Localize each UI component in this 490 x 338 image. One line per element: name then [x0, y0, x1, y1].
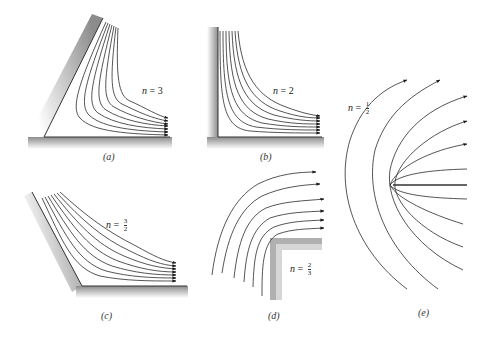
- wall-shading-b: [207, 27, 218, 137]
- fraction-denominator: 3: [308, 270, 312, 277]
- caption-e: (e): [418, 307, 429, 318]
- equals-sign: =: [147, 85, 158, 96]
- n-fraction: 23: [308, 262, 312, 277]
- floor-shading-c: [76, 286, 188, 298]
- n-value: 3: [158, 85, 163, 96]
- wall-shading-c: [24, 192, 82, 292]
- equals-sign: =: [111, 219, 122, 230]
- n-label-d: n = 23: [290, 262, 311, 277]
- n-label-b: n = 2: [273, 85, 294, 96]
- n-fraction: 12: [366, 101, 370, 116]
- equals-sign: =: [353, 102, 364, 113]
- caption-a: (a): [103, 151, 115, 162]
- streamlines-d: [212, 172, 324, 296]
- n-label-c: n = 32: [106, 218, 127, 233]
- streamlines-e-inner: [390, 169, 467, 199]
- caption-b: (b): [260, 151, 272, 162]
- wall-shading-d-inner: [276, 244, 322, 250]
- panel-b: [207, 27, 324, 149]
- n-value: 2: [289, 85, 294, 96]
- floor-shading-a: [28, 137, 172, 149]
- panel-d: [212, 172, 324, 300]
- caption-c: (c): [101, 310, 112, 321]
- wall-shading-a: [28, 14, 103, 137]
- caption-d: (d): [268, 310, 280, 321]
- streamlines-b: [220, 31, 320, 133]
- fraction-denominator: 2: [124, 226, 128, 233]
- fraction-denominator: 2: [366, 109, 370, 116]
- floor-shading-b: [207, 137, 324, 149]
- panel-a: [28, 14, 172, 149]
- n-fraction: 32: [124, 218, 128, 233]
- panel-c: [24, 192, 188, 298]
- equals-sign: =: [278, 85, 289, 96]
- n-label-a: n = 3: [142, 85, 163, 96]
- equals-sign: =: [295, 263, 306, 274]
- wall-shading-d-inner2: [276, 244, 282, 300]
- n-label-e: n = 12: [348, 101, 369, 116]
- flow-diagram-canvas: [0, 0, 490, 338]
